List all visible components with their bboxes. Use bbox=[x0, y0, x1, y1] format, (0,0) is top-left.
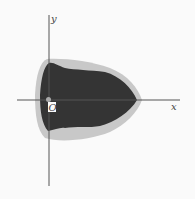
coordinate-diagram: O y x bbox=[0, 0, 195, 199]
x-axis-label: x bbox=[171, 101, 177, 112]
origin-label: O bbox=[49, 102, 57, 113]
y-axis-label: y bbox=[50, 13, 57, 24]
